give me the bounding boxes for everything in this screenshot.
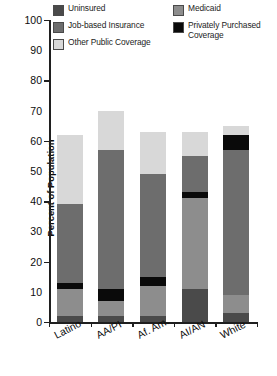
bar-stack: [98, 111, 124, 322]
y-tick-label-80: 80: [30, 74, 42, 86]
bar-segment-other-public-coverage: [223, 126, 249, 135]
legend-swatch-uninsured: [53, 5, 64, 16]
bar-segment-job-based-insurance: [223, 150, 249, 295]
y-tick-mark-100: [44, 20, 49, 21]
bar-segment-privately-purchased-coverage: [98, 289, 124, 301]
bar-segment-other-public-coverage: [182, 132, 208, 156]
y-tick-label-20: 20: [30, 256, 42, 268]
y-axis-line: [49, 20, 51, 322]
legend-label-medicaid: Medicaid: [188, 4, 221, 14]
x-tick-mark-end: [257, 322, 258, 327]
x-tick-mark-4: [215, 322, 216, 327]
bar-segment-medicaid: [140, 286, 166, 316]
bar-latino[interactable]: [57, 135, 83, 322]
plot-area: 1009080706050403020100 LatinoAA/PIAf. Am…: [49, 20, 257, 322]
bar-segment-medicaid: [182, 198, 208, 289]
y-tick-mark-80: [44, 80, 49, 81]
x-tick-mark-0: [49, 322, 50, 327]
bar-af-am[interactable]: [140, 132, 166, 322]
y-tick-label-70: 70: [30, 105, 42, 117]
bar-segment-job-based-insurance: [57, 204, 83, 283]
y-tick-mark-60: [44, 141, 49, 142]
y-tick-label-10: 10: [30, 286, 42, 298]
bar-segment-uninsured: [182, 289, 208, 322]
y-tick-label-60: 60: [30, 135, 42, 147]
x-tick-mark-2: [132, 322, 133, 327]
legend-item-medicaid: Medicaid: [173, 4, 221, 16]
bar-stack: [223, 126, 249, 322]
y-tick-label-100: 100: [24, 14, 42, 26]
y-tick-label-0: 0: [36, 316, 42, 328]
bar-segment-other-public-coverage: [57, 135, 83, 204]
x-tick-mark-3: [174, 322, 175, 327]
bar-segment-other-public-coverage: [140, 132, 166, 174]
bar-segment-other-public-coverage: [98, 111, 124, 150]
bar-segment-job-based-insurance: [140, 174, 166, 277]
bar-stack: [182, 132, 208, 322]
y-tick-label-90: 90: [30, 44, 42, 56]
bar-ai-an[interactable]: [182, 132, 208, 322]
bar-segment-privately-purchased-coverage: [140, 277, 166, 286]
bar-segment-job-based-insurance: [182, 156, 208, 192]
y-tick-mark-20: [44, 262, 49, 263]
legend-item-uninsured: Uninsured: [53, 4, 105, 16]
bar-segment-job-based-insurance: [98, 150, 124, 289]
bar-stack: [57, 135, 83, 322]
y-tick-mark-40: [44, 201, 49, 202]
bar-segment-medicaid: [98, 301, 124, 316]
bar-aa-pi[interactable]: [98, 111, 124, 322]
bar-segment-privately-purchased-coverage: [223, 135, 249, 150]
stacked-bar-chart: Uninsured Job-based Insurance Other Publ…: [0, 0, 277, 376]
x-tick-mark-1: [91, 322, 92, 327]
y-tick-label-40: 40: [30, 195, 42, 207]
bar-segment-medicaid: [57, 289, 83, 316]
legend-swatch-medicaid: [173, 5, 184, 16]
bar-stack: [140, 132, 166, 322]
legend-label-uninsured: Uninsured: [68, 4, 105, 14]
y-tick-label-30: 30: [30, 225, 42, 237]
bar-segment-medicaid: [223, 295, 249, 313]
bar-white[interactable]: [223, 126, 249, 322]
y-tick-label-50: 50: [30, 165, 42, 177]
